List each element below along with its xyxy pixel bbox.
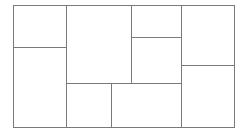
cell-b-big <box>66 5 132 84</box>
cell-c-top <box>181 5 235 66</box>
partition-diagram <box>0 0 247 135</box>
cell-b-small-mid <box>131 37 182 84</box>
cell-b-small-top <box>131 5 182 38</box>
cell-b-bottom-left <box>66 83 112 128</box>
cell-a-top <box>13 5 67 48</box>
cell-b-bottom-right <box>111 83 182 128</box>
cell-c-bottom <box>181 65 235 128</box>
cell-a-bottom <box>13 47 67 128</box>
